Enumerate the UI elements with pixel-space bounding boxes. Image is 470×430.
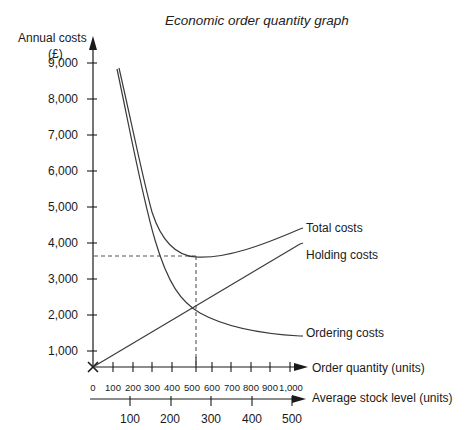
x-axis-primary xyxy=(93,363,308,371)
economic-order-quantity-graph: Economic order quantity graph Annual cos… xyxy=(0,0,470,430)
leader-line-holding-costs xyxy=(300,243,303,244)
y-axis xyxy=(89,36,97,367)
y-axis-ticks xyxy=(87,63,97,351)
chart-plot-area xyxy=(0,0,470,430)
x-axis-primary-ticks xyxy=(113,357,290,372)
x-axis-secondary xyxy=(90,395,306,403)
leader-line-total-costs xyxy=(300,228,303,229)
x-axis-secondary-ticks xyxy=(130,396,292,406)
series-curve-total-costs xyxy=(119,68,300,257)
series-curve-ordering-costs xyxy=(117,69,300,336)
